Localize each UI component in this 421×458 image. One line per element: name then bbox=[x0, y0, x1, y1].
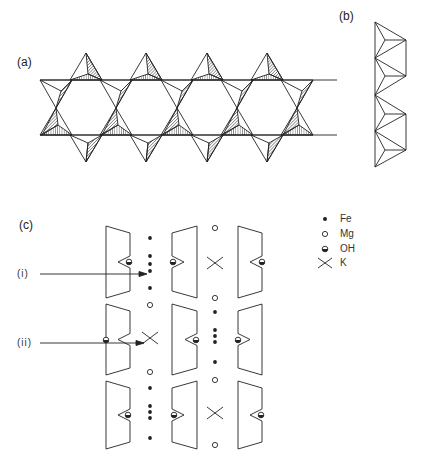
fe-legend-icon bbox=[323, 217, 327, 221]
structure-diagram bbox=[0, 0, 421, 458]
panel-b-label: (b) bbox=[339, 9, 354, 23]
legend-label-k: K bbox=[340, 257, 347, 268]
panel-a-chain bbox=[40, 53, 337, 162]
panel-b-chain bbox=[375, 22, 406, 167]
annotation-i: (i) bbox=[17, 268, 29, 279]
annotation-ii: (ii) bbox=[17, 337, 32, 348]
mg-legend-icon bbox=[322, 231, 327, 236]
panel-a-label: (a) bbox=[17, 55, 32, 69]
arrow-i bbox=[40, 272, 147, 277]
panel-c-ions bbox=[103, 225, 265, 447]
legend-symbols bbox=[318, 217, 332, 268]
k-legend-icon bbox=[318, 258, 332, 268]
legend-label-fe: Fe bbox=[340, 213, 352, 224]
legend-label-mg: Mg bbox=[340, 228, 354, 239]
panel-c-label: (c) bbox=[19, 218, 33, 232]
oh-legend-icon bbox=[322, 246, 328, 252]
legend-label-oh: OH bbox=[340, 243, 355, 254]
